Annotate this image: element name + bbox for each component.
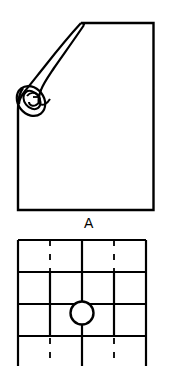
figure-a-caption: A <box>0 212 178 234</box>
curl-top-lip <box>81 23 84 25</box>
figure-b <box>0 234 178 366</box>
sheet-outline <box>18 23 154 210</box>
figure-b-svg <box>0 234 178 366</box>
figure-a-svg <box>0 0 178 215</box>
center-hole <box>71 302 94 325</box>
drawing-sheet: A <box>0 0 178 366</box>
figure-a <box>0 0 178 215</box>
